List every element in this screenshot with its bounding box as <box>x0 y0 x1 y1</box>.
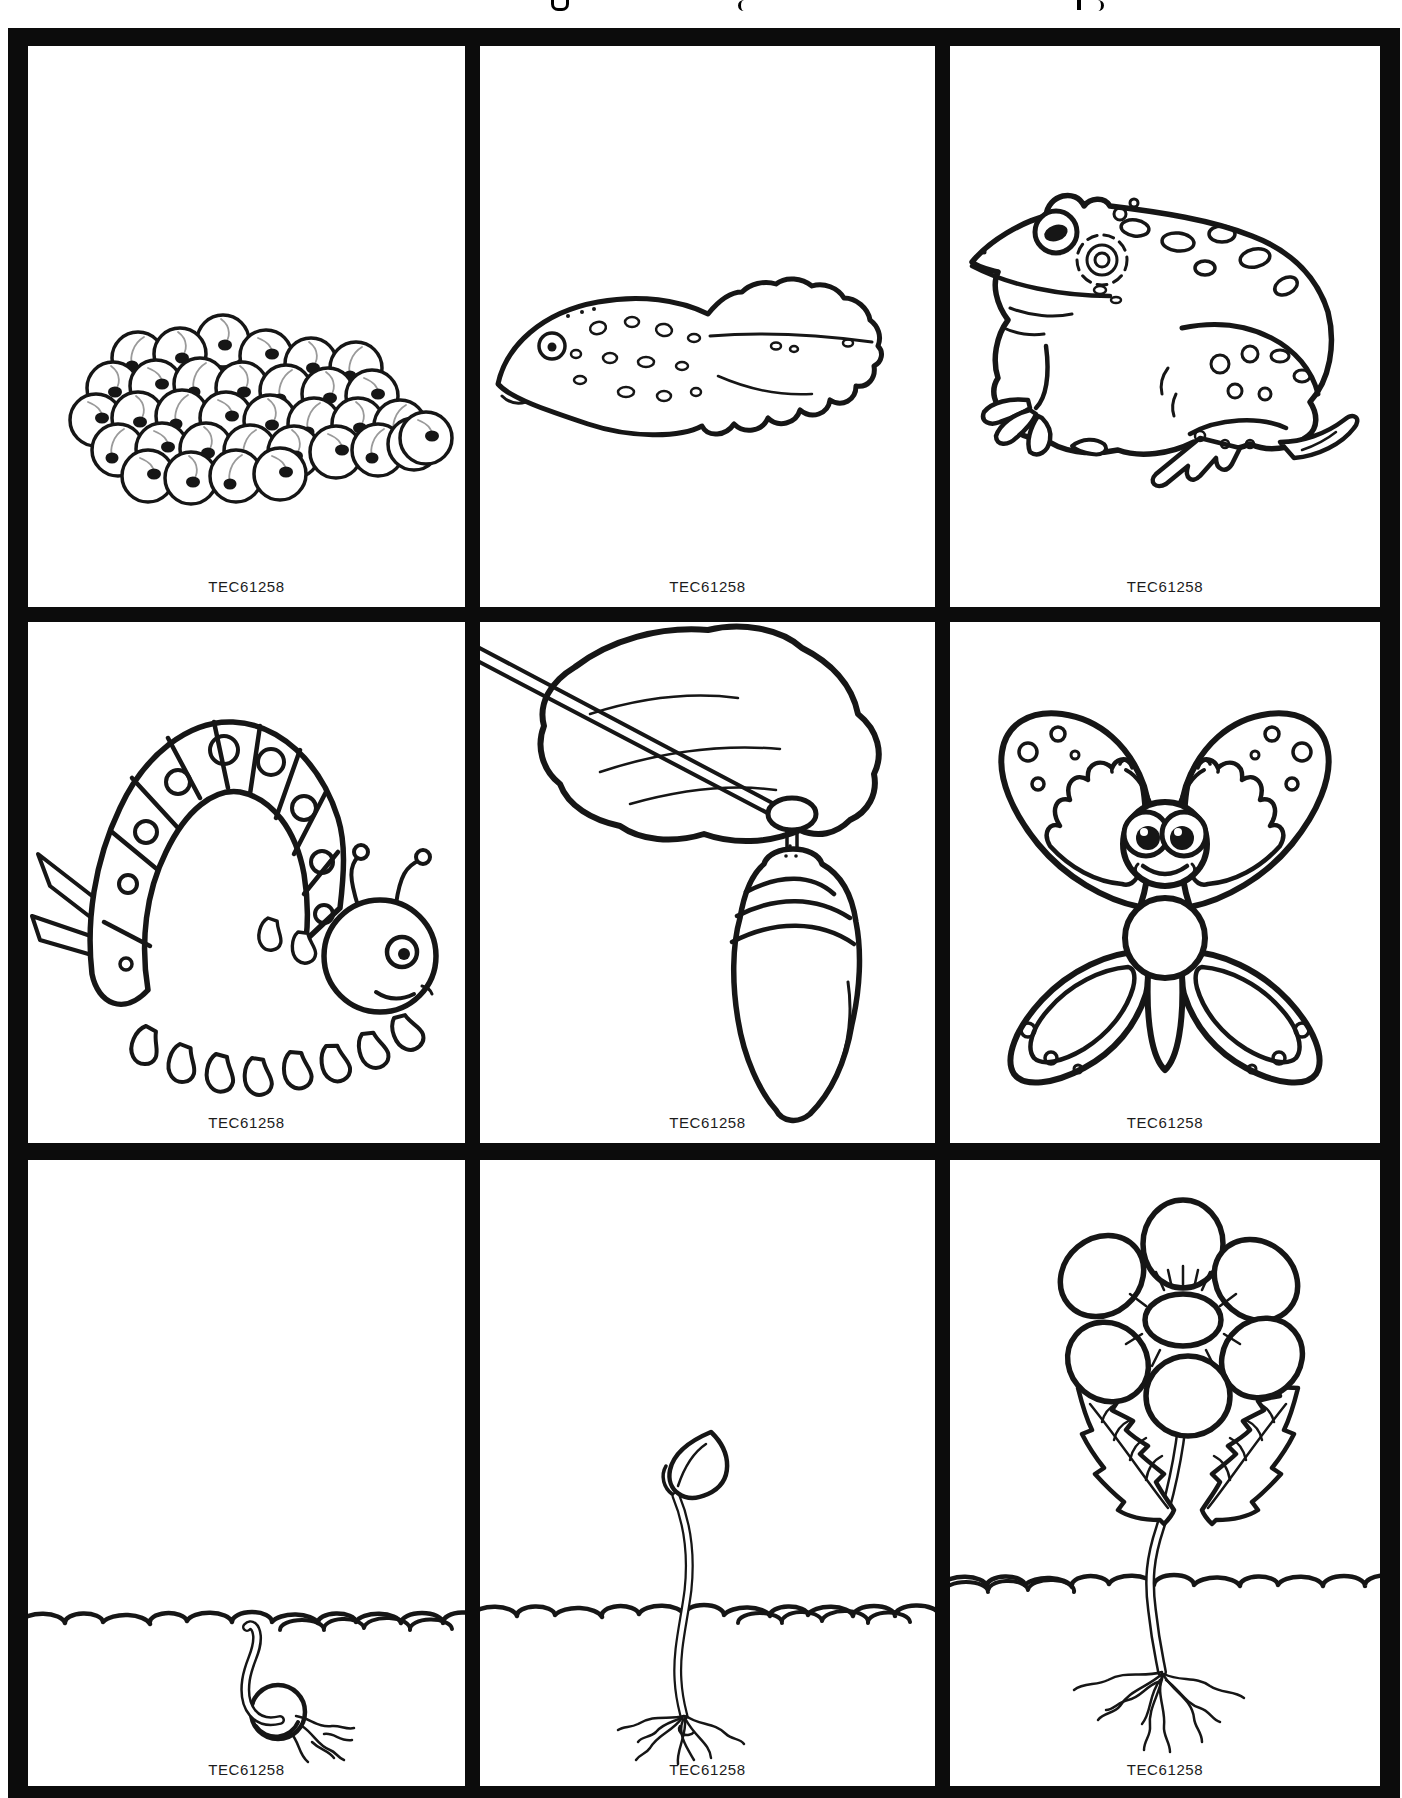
title-descender-fragment <box>551 0 569 11</box>
title-paren-fragment <box>738 0 748 11</box>
card-code: TEC61258 <box>950 1114 1380 1131</box>
card-caterpillar: TEC61258 <box>28 622 465 1143</box>
card-code: TEC61258 <box>28 1114 465 1131</box>
card-code: TEC61258 <box>480 1761 935 1778</box>
card-chrysalis: TEC61258 <box>480 622 935 1143</box>
card-sprouting-seed: TEC61258 <box>28 1160 465 1786</box>
frog-drawing <box>950 46 1380 607</box>
chrysalis-drawing <box>480 622 935 1143</box>
card-frog: TEC61258 <box>950 46 1380 607</box>
sprouting-seed-drawing <box>28 1160 465 1786</box>
card-frog-eggs: TEC61258 <box>28 46 465 607</box>
caterpillar-drawing <box>28 622 465 1143</box>
card-code: TEC61258 <box>480 1114 935 1131</box>
frog-eggs-drawing <box>28 46 465 607</box>
title-paren-fragment <box>1094 0 1104 11</box>
card-seedling: TEC61258 <box>480 1160 935 1786</box>
card-tadpole: TEC61258 <box>480 46 935 607</box>
card-code: TEC61258 <box>480 578 935 595</box>
flowering-plant-drawing <box>950 1160 1380 1786</box>
card-flowering-plant: TEC61258 <box>950 1160 1380 1786</box>
card-code: TEC61258 <box>28 1761 465 1778</box>
title-descender-fragment <box>1077 0 1081 10</box>
card-butterfly: TEC61258 <box>950 622 1380 1143</box>
seedling-drawing <box>480 1160 935 1786</box>
card-code: TEC61258 <box>28 578 465 595</box>
butterfly-drawing <box>950 622 1380 1143</box>
worksheet-page: TEC61258 TEC61258 <box>0 0 1402 1798</box>
card-code: TEC61258 <box>950 1761 1380 1778</box>
card-code: TEC61258 <box>950 578 1380 595</box>
tadpole-drawing <box>480 46 935 607</box>
